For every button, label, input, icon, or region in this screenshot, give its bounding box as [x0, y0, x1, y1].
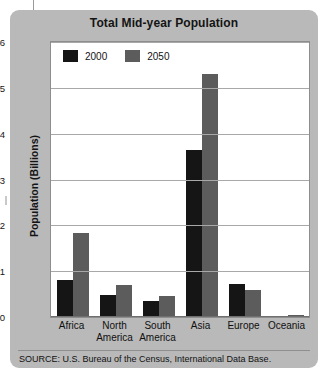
bar-south-america-2050: [159, 296, 175, 317]
bar-north-america-2000: [100, 295, 116, 317]
page-speck-artifact: [5, 196, 7, 205]
bar-africa-2050: [73, 233, 89, 317]
bar-asia-2050: [202, 74, 218, 317]
gridline-3: [51, 180, 309, 181]
gridline-5: [51, 88, 309, 89]
y-tick-label: 6: [0, 37, 5, 48]
bar-africa-2000: [57, 280, 73, 317]
legend-swatch-icon-2000: [63, 50, 78, 62]
x-label-africa: Africa: [50, 320, 93, 332]
y-tick-label: 4: [0, 128, 5, 139]
y-tick-label: 5: [0, 82, 5, 93]
x-label-line: Asia: [179, 320, 222, 332]
source-divider: [18, 350, 310, 351]
y-tick-label: 3: [0, 174, 5, 185]
x-axis-category-labels: AfricaNorthAmericaSouthAmericaAsiaEurope…: [50, 320, 310, 350]
legend-item-2050: 2050: [125, 50, 169, 62]
x-label-europe: Europe: [222, 320, 265, 332]
x-label-line: South: [136, 320, 179, 332]
legend-label: 2050: [147, 51, 169, 62]
source-note: SOURCE: U.S. Bureau of the Census, Inter…: [19, 354, 271, 364]
legend-item-2000: 2000: [63, 50, 107, 62]
y-tick-label: 0: [0, 312, 5, 323]
x-label-oceania: Oceania: [265, 320, 308, 332]
chart-legend: 20002050: [63, 50, 170, 62]
y-axis-title: Population (Billions): [28, 106, 40, 266]
plot-area: 20002050 0123456: [50, 41, 310, 318]
x-label-south-america: SouthAmerica: [136, 320, 179, 343]
bar-south-america-2000: [143, 301, 159, 317]
gridline-2: [51, 225, 309, 226]
x-label-line: Africa: [50, 320, 93, 332]
bar-europe-2050: [245, 290, 261, 318]
x-label-line: Europe: [222, 320, 265, 332]
chart-title: Total Mid-year Population: [10, 16, 318, 30]
bar-europe-2000: [229, 284, 245, 317]
x-label-line: North: [93, 320, 136, 332]
x-label-asia: Asia: [179, 320, 222, 332]
chart-figure-panel: Total Mid-year Population Population (Bi…: [10, 10, 318, 368]
legend-swatch-icon-2050: [125, 50, 140, 62]
gridline-0: [51, 316, 309, 317]
y-tick-label: 1: [0, 266, 5, 277]
gridline-4: [51, 134, 309, 135]
y-tick-label: 2: [0, 220, 5, 231]
x-label-line: America: [136, 332, 179, 344]
x-label-north-america: NorthAmerica: [93, 320, 136, 343]
legend-label: 2000: [85, 51, 107, 62]
bar-north-america-2050: [116, 285, 132, 317]
bar-asia-2000: [186, 150, 202, 317]
gridline-1: [51, 271, 309, 272]
x-label-line: America: [93, 332, 136, 344]
x-label-line: Oceania: [265, 320, 308, 332]
gridline-6: [51, 42, 309, 43]
